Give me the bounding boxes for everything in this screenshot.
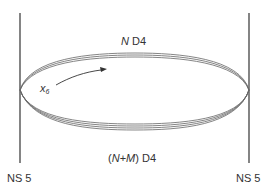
ns5-right-label: NS 5 [236,172,260,184]
top-d4-label: N D4 [121,35,146,47]
d4-top-stack [20,53,249,90]
top-d4-label-rest: D4 [129,35,146,47]
bottom-d4-rest: ) D4 [135,152,156,164]
ns5-left-label: NS 5 [7,172,31,184]
brane-diagram: N D4 (N+M) D4 x6 NS 5 NS 5 [0,0,272,188]
d4-bottom-stack [20,90,249,130]
x6-direction-arrow-icon [56,67,107,85]
bottom-d4-m: M [126,152,135,164]
x6-coordinate-label: x6 [40,82,49,98]
x6-subscript: 6 [46,88,50,95]
bottom-d4-n: N [112,152,120,164]
bottom-d4-label: (N+M) D4 [108,152,156,164]
top-d4-label-n: N [121,35,129,47]
